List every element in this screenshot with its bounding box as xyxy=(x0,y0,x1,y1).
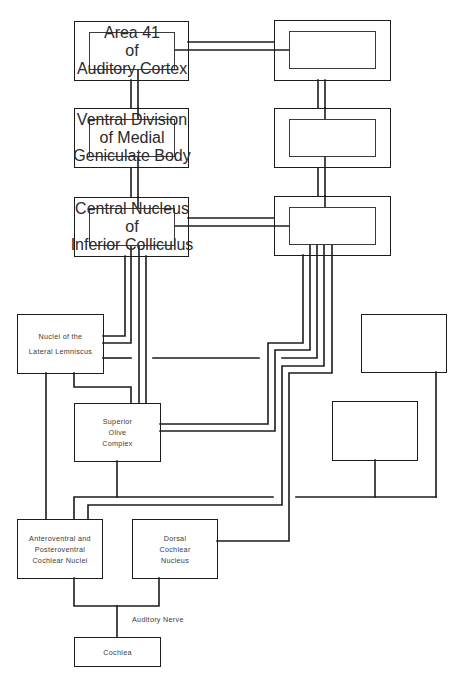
node-label: Nuclei of the xyxy=(39,329,83,344)
node-label: Olive xyxy=(109,427,127,438)
node-label: Area 41 xyxy=(104,24,160,42)
contralateral-superior-olive-node xyxy=(332,401,418,461)
node-label: of xyxy=(125,218,138,236)
contralateral-lateral-lemniscus-node xyxy=(361,314,447,373)
node-label: Cochlear Nuclei xyxy=(32,555,87,566)
auditory-cortex-node: Area 41 of Auditory Cortex xyxy=(89,32,175,70)
contralateral-mgb-node xyxy=(289,119,376,157)
node-label: Superior xyxy=(103,416,133,427)
contralateral-cortex-node xyxy=(289,31,376,69)
dorsal-cochlear-nucleus-node: Dorsal Cochlear Nucleus xyxy=(132,519,218,579)
node-label: Complex xyxy=(102,438,132,449)
node-label: Nucleus xyxy=(161,555,189,566)
node-label: Cochlea xyxy=(103,647,131,658)
node-label: Lateral Lemniscus xyxy=(29,344,92,359)
node-label: Central Nucleus xyxy=(75,200,189,218)
cochlea-node: Cochlea xyxy=(74,637,161,667)
medial-geniculate-node: Ventral Division of Medial Geniculate Bo… xyxy=(89,119,175,157)
superior-olive-node: Superior Olive Complex xyxy=(74,403,161,462)
inferior-colliculus-node: Central Nucleus of Inferior Colliculus xyxy=(89,208,175,246)
contralateral-ic-node xyxy=(289,207,376,245)
ventral-cochlear-nuclei-node: Anteroventral and Posteroventral Cochlea… xyxy=(17,519,103,579)
node-label: Posteroventral xyxy=(35,544,86,555)
node-label: of Medial xyxy=(100,129,165,147)
node-label: Anteroventral and xyxy=(29,533,91,544)
node-label: Inferior Colliculus xyxy=(71,236,194,254)
auditory-nerve-label: Auditory Nerve xyxy=(132,615,184,624)
lateral-lemniscus-node: Nuclei of the Lateral Lemniscus xyxy=(17,314,104,374)
node-label: Ventral Division xyxy=(77,111,187,129)
node-label: Auditory Cortex xyxy=(77,60,187,78)
node-label: of xyxy=(125,42,138,60)
node-label: Dorsal xyxy=(164,533,187,544)
node-label: Geniculate Body xyxy=(73,147,190,165)
node-label: Cochlear xyxy=(159,544,190,555)
